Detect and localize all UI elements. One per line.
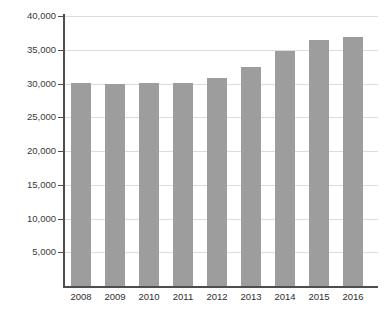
bar-2016 [343, 37, 363, 286]
bar-2011 [173, 83, 193, 286]
bar-2015 [309, 40, 329, 286]
bar-2008 [71, 83, 91, 286]
bar-2010 [139, 83, 159, 286]
bar-2014 [275, 51, 295, 286]
bar-chart: 40,000 35,000 30,000 25,000 20,000 15,00… [0, 0, 388, 310]
x-axis-label-2016: 2016 [333, 291, 373, 302]
bar-2012 [207, 78, 227, 286]
bar-2009 [105, 84, 125, 286]
bar-series [0, 0, 388, 310]
bar-2013 [241, 67, 261, 286]
